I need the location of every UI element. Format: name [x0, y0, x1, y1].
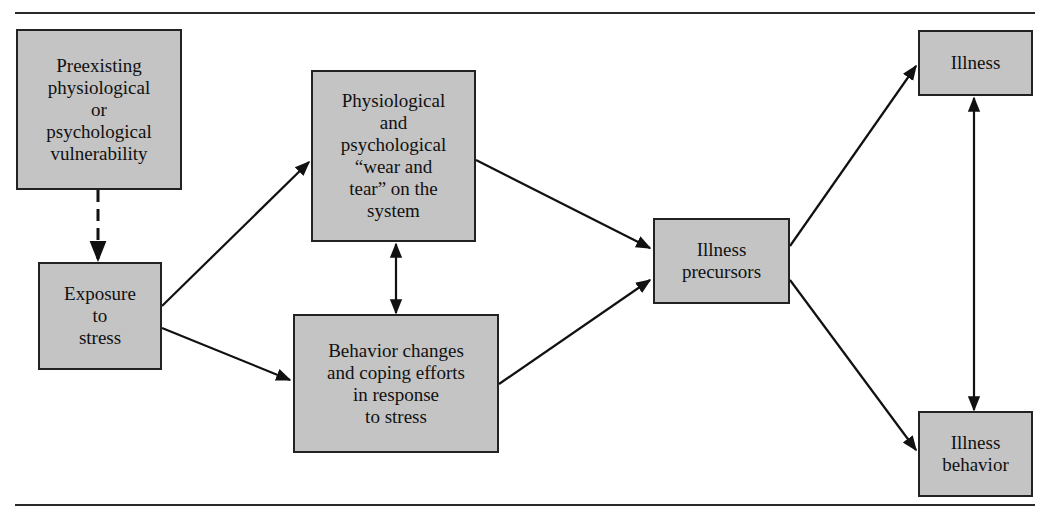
- node-label: Exposure to stress: [64, 283, 136, 349]
- node-exposure-to-stress: Exposure to stress: [38, 262, 162, 370]
- arrow-precursors-to-illness-behavior: [790, 280, 916, 450]
- node-label: Preexisting physiological or psychologic…: [46, 55, 152, 165]
- arrow-exposure-to-behavior: [162, 328, 290, 380]
- arrow-wear-tear-to-precursors: [476, 160, 650, 248]
- arrow-behavior-to-precursors: [499, 280, 650, 384]
- node-wear-and-tear: Physiological and psychological “wear an…: [311, 70, 476, 242]
- node-label: Illness behavior: [942, 432, 1008, 476]
- node-preexisting-vulnerability: Preexisting physiological or psychologic…: [16, 29, 182, 190]
- node-label: Illness precursors: [682, 239, 761, 283]
- node-illness: Illness: [918, 30, 1033, 96]
- node-illness-precursors: Illness precursors: [653, 218, 790, 304]
- node-behavior-changes: Behavior changes and coping efforts in r…: [293, 314, 499, 453]
- node-label: Physiological and psychological “wear an…: [341, 90, 447, 222]
- arrow-precursors-to-illness: [790, 66, 916, 246]
- node-illness-behavior: Illness behavior: [918, 411, 1033, 497]
- arrow-exposure-to-wear-tear: [162, 162, 309, 306]
- node-label: Behavior changes and coping efforts in r…: [327, 340, 465, 428]
- node-label: Illness: [951, 52, 1001, 74]
